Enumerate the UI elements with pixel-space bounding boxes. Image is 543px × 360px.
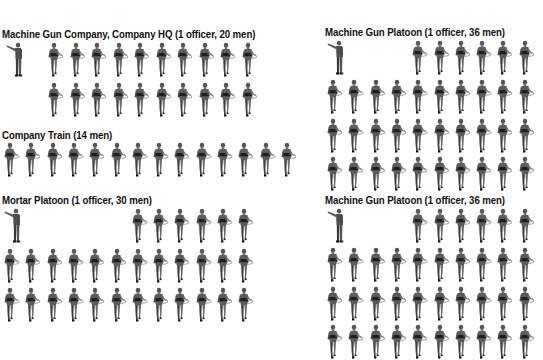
- marching-soldier-icon: [389, 156, 407, 192]
- marching-soldier-icon: [346, 118, 364, 154]
- marching-soldier-icon: [368, 156, 386, 192]
- marching-soldier-icon: [215, 208, 233, 244]
- marching-soldier-icon: [346, 286, 364, 322]
- marching-soldier-icon: [240, 82, 258, 118]
- marching-soldier-icon: [197, 42, 215, 78]
- marching-soldier-icon: [172, 248, 190, 284]
- marching-soldier-icon: [130, 142, 148, 178]
- marching-soldier-icon: [325, 247, 343, 283]
- marching-soldier-icon: [517, 286, 535, 322]
- marching-soldier-icon: [2, 287, 20, 323]
- marching-soldier-icon: [517, 118, 535, 154]
- marching-soldier-icon: [474, 79, 492, 115]
- marching-soldier-icon: [474, 156, 492, 192]
- marching-soldier-icon: [410, 40, 428, 76]
- unit-title: Machine Gun Company, Company HQ (1 offic…: [2, 28, 255, 40]
- marching-soldier-icon: [109, 248, 127, 284]
- marching-soldier-icon: [89, 82, 107, 118]
- marching-soldier-icon: [68, 82, 86, 118]
- marching-soldier-icon: [130, 287, 148, 323]
- marching-soldier-icon: [410, 208, 428, 244]
- marching-soldier-icon: [325, 324, 343, 360]
- marching-soldier-icon: [66, 287, 84, 323]
- marching-soldier-icon: [410, 118, 428, 154]
- marching-soldier-icon: [517, 79, 535, 115]
- marching-soldier-icon: [432, 79, 450, 115]
- marching-soldier-icon: [109, 287, 127, 323]
- marching-soldier-icon: [172, 208, 190, 244]
- marching-soldier-icon: [194, 208, 212, 244]
- marching-soldier-icon: [68, 42, 86, 78]
- pointing-officer-icon: [327, 40, 349, 76]
- marching-soldier-icon: [87, 142, 105, 178]
- marching-soldier-icon: [410, 156, 428, 192]
- marching-soldier-icon: [495, 40, 513, 76]
- marching-soldier-icon: [132, 42, 150, 78]
- marching-soldier-icon: [45, 248, 63, 284]
- marching-soldier-icon: [495, 156, 513, 192]
- marching-soldier-icon: [432, 247, 450, 283]
- marching-soldier-icon: [236, 287, 254, 323]
- marching-soldier-icon: [46, 82, 64, 118]
- marching-soldier-icon: [368, 247, 386, 283]
- marching-soldier-icon: [346, 156, 364, 192]
- marching-soldier-icon: [325, 156, 343, 192]
- marching-soldier-icon: [453, 156, 471, 192]
- marching-soldier-icon: [87, 248, 105, 284]
- marching-soldier-icon: [194, 142, 212, 178]
- marching-soldier-icon: [368, 324, 386, 360]
- marching-soldier-icon: [453, 79, 471, 115]
- marching-soldier-icon: [66, 248, 84, 284]
- marching-soldier-icon: [23, 142, 41, 178]
- marching-soldier-icon: [218, 82, 236, 118]
- pointing-officer-icon: [6, 42, 28, 78]
- marching-soldier-icon: [258, 142, 276, 178]
- marching-soldier-icon: [495, 118, 513, 154]
- marching-soldier-icon: [172, 287, 190, 323]
- marching-soldier-icon: [2, 142, 20, 178]
- unit-mortar-platoon: Mortar Platoon (1 officer, 30 men): [2, 194, 272, 334]
- marching-soldier-icon: [495, 286, 513, 322]
- marching-soldier-icon: [151, 287, 169, 323]
- marching-soldier-icon: [109, 142, 127, 178]
- marching-soldier-icon: [389, 118, 407, 154]
- marching-soldier-icon: [23, 248, 41, 284]
- marching-soldier-icon: [23, 287, 41, 323]
- marching-soldier-icon: [368, 118, 386, 154]
- marching-soldier-icon: [517, 208, 535, 244]
- marching-soldier-icon: [389, 79, 407, 115]
- marching-soldier-icon: [151, 248, 169, 284]
- marching-soldier-icon: [453, 118, 471, 154]
- unit-mg-company-hq: Machine Gun Company, Company HQ (1 offic…: [2, 28, 272, 123]
- marching-soldier-icon: [453, 208, 471, 244]
- marching-soldier-icon: [410, 79, 428, 115]
- marching-soldier-icon: [517, 247, 535, 283]
- marching-soldier-icon: [346, 247, 364, 283]
- unit-title: Machine Gun Platoon (1 officer, 36 men): [325, 26, 505, 38]
- unit-title: Mortar Platoon (1 officer, 30 men): [2, 194, 152, 206]
- marching-soldier-icon: [172, 142, 190, 178]
- marching-soldier-icon: [151, 142, 169, 178]
- marching-soldier-icon: [389, 286, 407, 322]
- marching-soldier-icon: [453, 40, 471, 76]
- marching-soldier-icon: [111, 42, 129, 78]
- marching-soldier-icon: [495, 208, 513, 244]
- marching-soldier-icon: [474, 118, 492, 154]
- marching-soldier-icon: [45, 142, 63, 178]
- marching-soldier-icon: [389, 247, 407, 283]
- unit-title: Company Train (14 men): [2, 129, 112, 141]
- marching-soldier-icon: [325, 286, 343, 322]
- marching-soldier-icon: [453, 324, 471, 360]
- marching-soldier-icon: [151, 208, 169, 244]
- marching-soldier-icon: [111, 82, 129, 118]
- marching-soldier-icon: [495, 79, 513, 115]
- marching-soldier-icon: [432, 208, 450, 244]
- marching-soldier-icon: [194, 287, 212, 323]
- marching-soldier-icon: [346, 324, 364, 360]
- marching-soldier-icon: [432, 118, 450, 154]
- marching-soldier-icon: [236, 248, 254, 284]
- marching-soldier-icon: [130, 208, 148, 244]
- pointing-officer-icon: [327, 208, 349, 244]
- marching-soldier-icon: [175, 82, 193, 118]
- marching-soldier-icon: [432, 324, 450, 360]
